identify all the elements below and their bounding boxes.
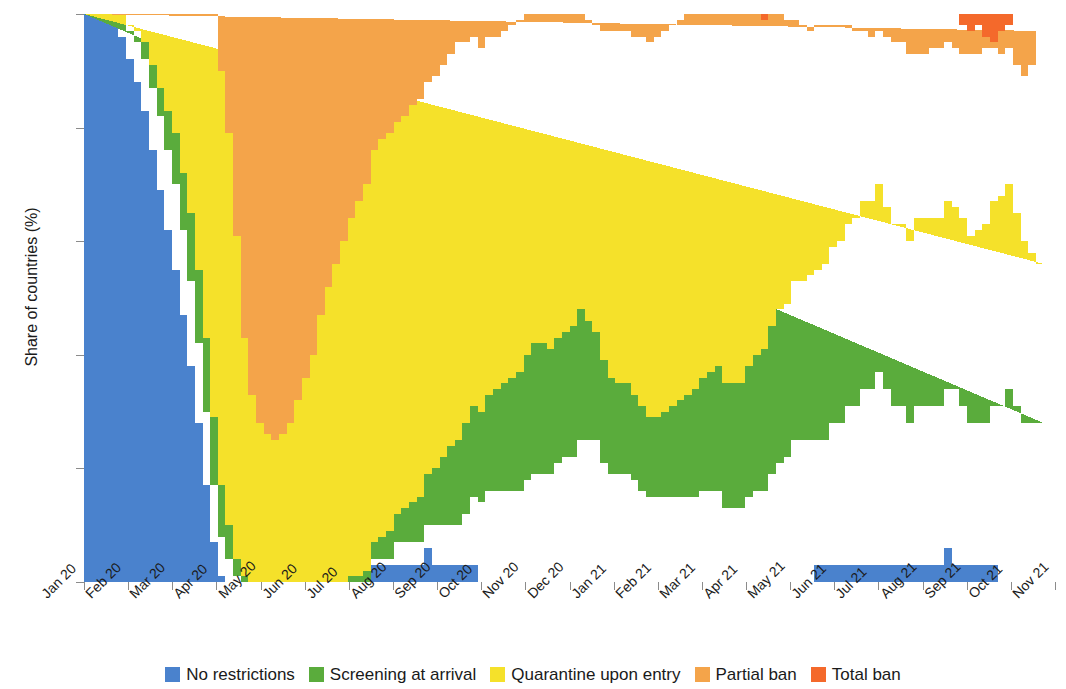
legend-swatch-icon [309, 667, 324, 682]
y-tick-mark [76, 241, 84, 242]
y-tick-mark [76, 14, 84, 15]
y-tick-mark [76, 128, 84, 129]
legend-item-label: No restrictions [186, 665, 295, 685]
legend-swatch-icon [695, 667, 710, 682]
legend-item[interactable]: Total ban [811, 665, 901, 685]
legend-item-label: Partial ban [716, 665, 797, 685]
legend-item[interactable]: No restrictions [165, 665, 295, 685]
legend-swatch-icon [811, 667, 826, 682]
y-tick-mark [76, 582, 84, 583]
plot-area [84, 14, 1055, 582]
y-axis-title: Share of countries (%) [23, 137, 41, 437]
legend-item[interactable]: Quarantine upon entry [490, 665, 680, 685]
stacked-area-chart [84, 14, 1055, 582]
x-tick-mark [1055, 582, 1056, 590]
legend-item[interactable]: Screening at arrival [309, 665, 476, 685]
legend-item[interactable]: Partial ban [695, 665, 797, 685]
legend-item-label: Quarantine upon entry [511, 665, 680, 685]
chart-figure: Share of countries (%) 020406080100 Jan … [0, 0, 1066, 689]
legend-item-label: Total ban [832, 665, 901, 685]
x-tick-label: Jan 20 [38, 560, 79, 601]
legend-swatch-icon [490, 667, 505, 682]
y-tick-mark [76, 355, 84, 356]
y-tick-mark [76, 468, 84, 469]
legend-item-label: Screening at arrival [330, 665, 476, 685]
chart-legend: No restrictionsScreening at arrivalQuara… [0, 660, 1066, 689]
legend-swatch-icon [165, 667, 180, 682]
